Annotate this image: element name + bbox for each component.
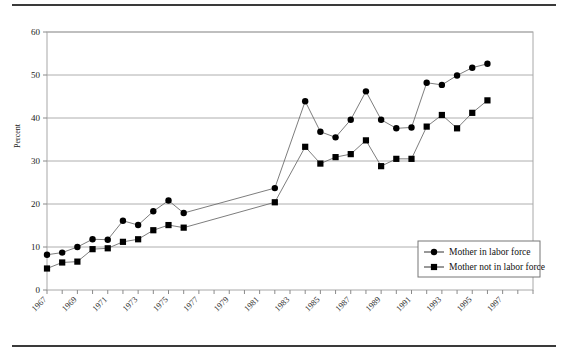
data-point-mother-not-in-labor-force-1971 <box>105 245 111 251</box>
y-axis-label: Percent <box>13 123 22 148</box>
data-point-mother-not-in-labor-force-1993 <box>439 112 445 118</box>
data-point-mother-in-labor-force-1982 <box>272 185 278 191</box>
data-point-mother-in-labor-force-1969 <box>74 244 80 250</box>
data-point-mother-not-in-labor-force-1990 <box>393 156 399 162</box>
chart-legend: Mother in labor forceMother not in labor… <box>418 241 545 277</box>
gridlines-group <box>47 32 533 247</box>
data-point-mother-in-labor-force-1986 <box>332 134 338 140</box>
x-tick-label-1991: 1991 <box>394 294 413 313</box>
x-tick-label-1997: 1997 <box>485 294 504 313</box>
x-tick-label-1987: 1987 <box>333 294 352 313</box>
x-tick-label-1979: 1979 <box>212 294 231 313</box>
x-tick-label-1975: 1975 <box>151 294 170 313</box>
data-point-mother-not-in-labor-force-1985 <box>317 160 323 166</box>
legend-label-0: Mother in labor force <box>449 247 531 257</box>
data-point-mother-not-in-labor-force-1970 <box>89 246 95 252</box>
data-point-mother-in-labor-force-1995 <box>469 64 475 70</box>
y-tick-label-20: 20 <box>31 199 41 209</box>
x-tick-label-1981: 1981 <box>242 294 261 313</box>
circle-marker-icon <box>431 249 437 255</box>
x-tick-label-1993: 1993 <box>424 294 443 313</box>
x-tick-label-1977: 1977 <box>181 294 200 313</box>
data-point-mother-not-in-labor-force-1992 <box>424 124 430 130</box>
data-point-mother-in-labor-force-1993 <box>439 82 445 88</box>
y-axis-title: Percent <box>13 123 22 148</box>
x-tick-label-1969: 1969 <box>60 294 79 313</box>
data-point-mother-not-in-labor-force-1989 <box>378 163 384 169</box>
y-tick-label-50: 50 <box>31 70 41 80</box>
data-point-mother-not-in-labor-force-1987 <box>348 151 354 157</box>
x-tick-label-1995: 1995 <box>455 294 474 313</box>
data-point-mother-in-labor-force-1971 <box>105 236 111 242</box>
data-point-mother-in-labor-force-1968 <box>59 249 65 255</box>
x-tick-label-1985: 1985 <box>303 294 322 313</box>
data-point-mother-in-labor-force-1996 <box>484 61 490 67</box>
data-point-mother-in-labor-force-1994 <box>454 72 460 78</box>
data-point-mother-in-labor-force-1988 <box>363 88 369 94</box>
data-point-mother-not-in-labor-force-1994 <box>454 125 460 131</box>
y-tick-label-10: 10 <box>31 242 41 252</box>
data-point-mother-in-labor-force-1987 <box>348 117 354 123</box>
data-point-mother-not-in-labor-force-1995 <box>469 110 475 116</box>
y-tick-label-30: 30 <box>31 156 41 166</box>
x-tick-label-1967: 1967 <box>29 294 48 313</box>
data-point-mother-in-labor-force-1974 <box>150 208 156 214</box>
y-tick-label-0: 0 <box>36 285 41 295</box>
data-point-mother-in-labor-force-1990 <box>393 125 399 131</box>
x-tick-label-1971: 1971 <box>90 294 109 313</box>
data-series-group <box>44 61 491 272</box>
data-point-mother-in-labor-force-1984 <box>302 98 308 104</box>
data-point-mother-in-labor-force-1975 <box>165 197 171 203</box>
y-tick-label-60: 60 <box>31 27 41 37</box>
data-point-mother-in-labor-force-1991 <box>408 124 414 130</box>
line-chart: 0102030405060 19671969197119731975197719… <box>0 0 568 357</box>
data-point-mother-in-labor-force-1989 <box>378 117 384 123</box>
data-point-mother-not-in-labor-force-1968 <box>59 259 65 265</box>
data-point-mother-not-in-labor-force-1974 <box>150 227 156 233</box>
y-tick-label-40: 40 <box>31 113 41 123</box>
data-point-mother-not-in-labor-force-1982 <box>272 199 278 205</box>
data-point-mother-not-in-labor-force-1969 <box>74 259 80 265</box>
x-tick-label-1973: 1973 <box>120 294 139 313</box>
data-point-mother-in-labor-force-1973 <box>135 222 141 228</box>
data-point-mother-in-labor-force-1970 <box>89 236 95 242</box>
data-point-mother-not-in-labor-force-1967 <box>44 265 50 271</box>
x-tick-label-1989: 1989 <box>363 294 382 313</box>
data-point-mother-in-labor-force-1972 <box>120 218 126 224</box>
data-point-mother-in-labor-force-1992 <box>423 80 429 86</box>
data-point-mother-not-in-labor-force-1986 <box>332 154 338 160</box>
data-point-mother-in-labor-force-1985 <box>317 129 323 135</box>
data-point-mother-in-labor-force-1967 <box>44 252 50 258</box>
data-point-mother-not-in-labor-force-1996 <box>484 97 490 103</box>
data-point-mother-not-in-labor-force-1991 <box>408 156 414 162</box>
data-point-mother-not-in-labor-force-1973 <box>135 236 141 242</box>
square-marker-icon <box>431 264 437 270</box>
data-point-mother-in-labor-force-1976 <box>180 210 186 216</box>
data-point-mother-not-in-labor-force-1972 <box>120 239 126 245</box>
x-tick-label-1983: 1983 <box>272 294 291 313</box>
data-point-mother-not-in-labor-force-1984 <box>302 144 308 150</box>
data-point-mother-not-in-labor-force-1988 <box>363 137 369 143</box>
figure-root: 0102030405060 19671969197119731975197719… <box>0 0 568 357</box>
data-point-mother-not-in-labor-force-1975 <box>165 222 171 228</box>
x-axis-ticks: 1967196919711973197519771979198119831985… <box>29 290 533 313</box>
legend-label-1: Mother not in labor force <box>449 262 545 272</box>
data-point-mother-not-in-labor-force-1976 <box>181 225 187 231</box>
series-line-mother-in-labor-force <box>47 64 487 255</box>
